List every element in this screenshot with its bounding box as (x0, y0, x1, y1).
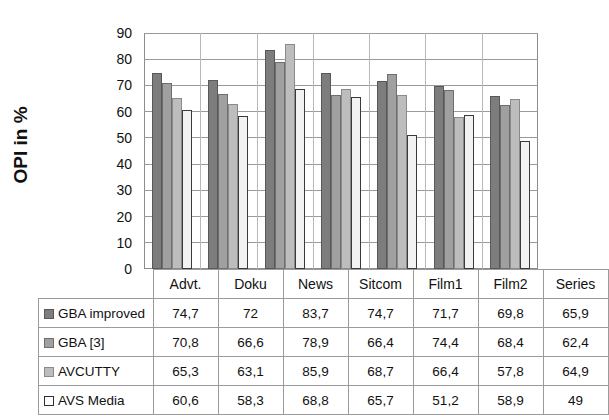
table-cell: 60,6 (153, 386, 218, 415)
table-column-header: Series (543, 270, 608, 299)
table-row: GBA [3]70,866,678,966,474,468,462,4 (39, 328, 609, 357)
table-cell: 85,9 (283, 357, 348, 386)
bar (397, 95, 407, 269)
bar-groups (144, 33, 538, 269)
table-cell: 71,7 (413, 299, 478, 328)
table-row: AVS Media60,658,368,865,751,258,949 (39, 386, 609, 415)
bar (285, 44, 295, 269)
table-cell: 74,7 (153, 299, 218, 328)
y-axis-title: OPI in % (6, 60, 36, 230)
y-axis-tick-80: 80 (116, 52, 132, 66)
table-cell: 65,7 (348, 386, 413, 415)
table-cell: 62,4 (543, 328, 608, 357)
legend-cell: GBA improved (39, 299, 154, 328)
bar (275, 62, 285, 269)
legend-cell: AVS Media (39, 386, 154, 415)
legend-label: AVCUTTY (58, 364, 120, 379)
legend-label: GBA [3] (58, 335, 105, 350)
table-column-header: Advt. (153, 270, 218, 299)
bar (321, 73, 331, 269)
legend-label: GBA improved (58, 306, 145, 321)
bar (295, 89, 305, 269)
table-corner-cell (39, 270, 154, 299)
table-cell: 69,8 (478, 299, 543, 328)
y-axis-tick-30: 30 (116, 183, 132, 197)
bar (434, 86, 444, 269)
table-cell: 49 (543, 386, 608, 415)
table-cell: 63,1 (218, 357, 283, 386)
bar (510, 99, 520, 269)
table-column-header: Sitcom (348, 270, 413, 299)
bar (387, 74, 397, 269)
bar (331, 95, 341, 269)
legend-label: AVS Media (58, 393, 125, 408)
bar (218, 94, 228, 269)
table-cell: 58,9 (478, 386, 543, 415)
y-axis-tick-90: 90 (116, 26, 132, 40)
y-axis-tick-40: 40 (116, 157, 132, 171)
bar (238, 116, 248, 269)
bar (520, 141, 530, 269)
bar (208, 80, 218, 269)
table-cell: 65,3 (153, 357, 218, 386)
table-header-row: Advt.DokuNewsSitcomFilm1Film2Series (39, 270, 609, 299)
table-column-header: Doku (218, 270, 283, 299)
bar (407, 135, 417, 269)
y-axis-tick-50: 50 (116, 131, 132, 145)
bar-group-series (482, 33, 538, 269)
bar (490, 96, 500, 269)
table-row: GBA improved74,77283,774,771,769,865,9 (39, 299, 609, 328)
bar (444, 90, 454, 269)
legend-swatch-icon (44, 338, 54, 348)
data-table: Advt.DokuNewsSitcomFilm1Film2SeriesGBA i… (38, 269, 609, 415)
bar-group-news (257, 33, 313, 269)
table-cell: 74,4 (413, 328, 478, 357)
bar (162, 83, 172, 269)
plot-area (144, 33, 538, 269)
y-axis-tick-60: 60 (116, 105, 132, 119)
y-axis-tick-70: 70 (116, 78, 132, 92)
bar-group-sitcom (313, 33, 369, 269)
bar (265, 50, 275, 269)
legend-swatch-icon (44, 396, 54, 406)
bar (341, 89, 351, 269)
y-axis-tick-labels: 9080706050403020100 (100, 33, 138, 269)
table-cell: 51,2 (413, 386, 478, 415)
bar (172, 98, 182, 269)
table-cell: 66,4 (348, 328, 413, 357)
bar (351, 97, 361, 269)
table-cell: 66,4 (413, 357, 478, 386)
table-row: AVCUTTY65,363,185,968,766,457,864,9 (39, 357, 609, 386)
bar (228, 104, 238, 269)
bar (500, 105, 510, 269)
table-cell: 74,7 (348, 299, 413, 328)
table-cell: 68,4 (478, 328, 543, 357)
table-cell: 70,8 (153, 328, 218, 357)
bar-group-doku (200, 33, 256, 269)
table-cell: 66,6 (218, 328, 283, 357)
legend-swatch-icon (44, 367, 54, 377)
y-axis-title-label: OPI in % (10, 106, 32, 183)
table-cell: 83,7 (283, 299, 348, 328)
bar-group-film2 (425, 33, 481, 269)
table-cell: 68,8 (283, 386, 348, 415)
table-cell: 68,7 (348, 357, 413, 386)
bar (182, 110, 192, 269)
bar-group-film1 (369, 33, 425, 269)
table-cell: 64,9 (543, 357, 608, 386)
legend-cell: GBA [3] (39, 328, 154, 357)
table-cell: 78,9 (283, 328, 348, 357)
table-column-header: Film1 (413, 270, 478, 299)
table-column-header: Film2 (478, 270, 543, 299)
table-cell: 65,9 (543, 299, 608, 328)
table-cell: 58,3 (218, 386, 283, 415)
table-column-header: News (283, 270, 348, 299)
bar-group-advt (144, 33, 200, 269)
legend-cell: AVCUTTY (39, 357, 154, 386)
table-cell: 57,8 (478, 357, 543, 386)
bar (377, 81, 387, 269)
bar (454, 117, 464, 269)
legend-swatch-icon (44, 309, 54, 319)
bar (464, 115, 474, 269)
